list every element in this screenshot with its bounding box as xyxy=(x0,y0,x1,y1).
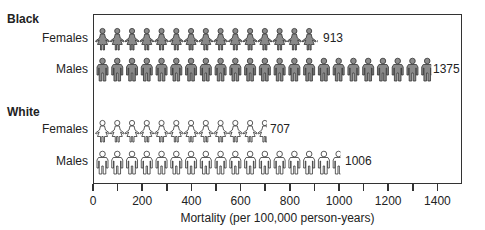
male-figure-icon xyxy=(200,151,211,174)
female-figure-icon xyxy=(110,28,124,50)
male-figure-icon xyxy=(200,58,211,81)
value-black-females: 913 xyxy=(323,31,343,45)
x-tick xyxy=(191,184,193,191)
female-figure-icon xyxy=(302,28,316,50)
x-tick xyxy=(387,184,389,191)
male-figure-icon xyxy=(215,58,226,81)
male-figure-icon xyxy=(363,58,374,81)
male-figure-icon xyxy=(304,58,315,81)
male-figure-icon xyxy=(304,151,315,174)
male-figure-icon xyxy=(141,58,152,81)
x-axis-title: Mortality (per 100,000 person-years) xyxy=(93,211,462,225)
x-tick-label: 600 xyxy=(231,194,251,208)
male-figure-icon xyxy=(259,58,270,81)
male-figure-icon xyxy=(333,58,344,81)
male-figure-icon xyxy=(186,58,197,81)
male-figure-icon xyxy=(318,58,329,81)
male-figure-icon xyxy=(245,58,256,81)
male-figure-icon xyxy=(407,58,418,81)
male-figure-icon xyxy=(289,58,300,81)
female-figure-icon xyxy=(199,120,213,142)
male-figure-icon xyxy=(156,151,167,174)
male-figure-icon xyxy=(171,151,182,174)
male-figure-icon xyxy=(127,58,138,81)
x-tick xyxy=(240,184,242,191)
female-figure-icon xyxy=(125,28,139,50)
male-figure-icon xyxy=(245,151,256,174)
x-tick-label: 800 xyxy=(280,194,300,208)
female-figure-icon xyxy=(96,28,110,50)
male-figure-icon xyxy=(230,151,241,174)
x-tick xyxy=(289,184,291,191)
female-figure-icon xyxy=(155,120,169,142)
female-figure-icon xyxy=(214,28,228,50)
female-figure-icon xyxy=(273,28,287,50)
x-tick xyxy=(141,184,143,191)
female-figure-icon xyxy=(140,120,154,142)
female-figure-icon xyxy=(214,120,228,142)
female-figure-icon xyxy=(125,120,139,142)
female-figure-icon xyxy=(228,28,242,50)
male-figure-icon xyxy=(230,58,241,81)
female-figure-icon xyxy=(243,120,257,142)
male-figure-icon xyxy=(156,58,167,81)
x-tick xyxy=(437,184,439,191)
male-figure-icon xyxy=(141,151,152,174)
female-figure-icon xyxy=(140,28,154,50)
male-figure-icon xyxy=(127,151,138,174)
x-tick xyxy=(264,184,266,191)
x-tick xyxy=(412,184,414,191)
x-tick-label: 1000 xyxy=(326,194,353,208)
male-figure-icon xyxy=(392,58,403,81)
male-figure-icon xyxy=(422,58,433,81)
female-figure-icon xyxy=(287,28,301,50)
male-figure-icon xyxy=(171,58,182,81)
value-black-males: 1375 xyxy=(433,62,460,76)
male-figure-icon xyxy=(215,151,226,174)
male-figure-icon xyxy=(318,151,329,174)
x-tick xyxy=(338,184,340,191)
male-figure-icon xyxy=(274,151,285,174)
x-tick-label: 1200 xyxy=(375,194,402,208)
male-figure-icon xyxy=(112,151,123,174)
x-tick-label: 0 xyxy=(90,194,97,208)
female-figure-icon xyxy=(228,120,242,142)
x-tick xyxy=(314,184,316,191)
x-tick xyxy=(215,184,217,191)
x-tick xyxy=(166,184,168,191)
female-figure-icon xyxy=(243,28,257,50)
x-tick xyxy=(92,184,94,191)
male-figure-icon xyxy=(97,58,108,81)
female-figure-icon xyxy=(169,28,183,50)
value-white-males: 1006 xyxy=(345,154,372,168)
female-figure-icon xyxy=(199,28,213,50)
male-figure-icon xyxy=(97,151,108,174)
male-figure-icon xyxy=(289,151,300,174)
male-figure-icon xyxy=(259,151,270,174)
x-tick xyxy=(363,184,365,191)
female-figure-icon xyxy=(258,28,272,50)
value-white-females: 707 xyxy=(270,122,290,136)
male-figure-icon xyxy=(186,151,197,174)
female-figure-icon xyxy=(96,120,110,142)
female-figure-icon xyxy=(184,28,198,50)
male-figure-icon xyxy=(377,58,388,81)
male-figure-icon xyxy=(274,58,285,81)
female-figure-icon xyxy=(155,28,169,50)
male-figure-icon xyxy=(112,58,123,81)
male-figure-icon xyxy=(333,151,344,174)
x-tick-label: 400 xyxy=(181,194,201,208)
female-figure-icon xyxy=(169,120,183,142)
x-tick-label: 200 xyxy=(132,194,152,208)
male-figure-icon xyxy=(348,58,359,81)
x-tick-label: 1400 xyxy=(424,194,451,208)
female-figure-icon xyxy=(184,120,198,142)
x-tick xyxy=(117,184,119,191)
female-figure-icon xyxy=(110,120,124,142)
